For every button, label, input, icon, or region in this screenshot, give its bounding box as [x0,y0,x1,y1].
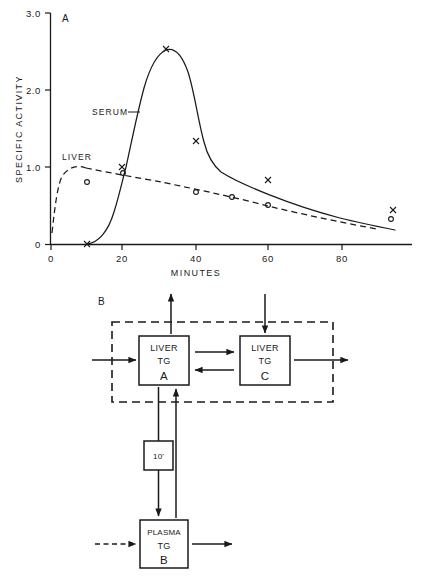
figure-svg: A 3.0 2.0 1.0 0 0 20 40 60 80 MINUTES [0,0,421,583]
serum-series-label: SERUM [92,107,128,117]
serum-curve [87,49,395,244]
panel-b-diagram: B LIVER TG A LIVER TG C 10' PLASMA TG B [92,294,348,568]
liver-tg-c-line3: C [261,370,270,382]
panel-a-letter: A [62,13,69,24]
x-tick-label-4: 80 [336,253,348,264]
x-tick-label-2: 40 [190,253,202,264]
x-tick-label-3: 60 [262,253,274,264]
x-tick-label-1: 20 [116,253,128,264]
serum-marker-60 [265,177,271,183]
liver-curve-rise [52,166,86,233]
y-tick-label-1: 1.0 [26,162,41,173]
plasma-tg-b-line1: PLASMA [147,528,181,537]
liver-data-markers [85,171,394,222]
plasma-tg-b-line2: TG [157,541,170,551]
panel-a-chart: A 3.0 2.0 1.0 0 0 20 40 60 80 MINUTES [14,8,412,278]
y-tick-label-2: 2.0 [26,85,41,96]
figure-container: A 3.0 2.0 1.0 0 0 20 40 60 80 MINUTES [0,0,421,583]
x-axis-title: MINUTES [171,268,221,278]
plasma-tg-b-line3: B [160,554,168,566]
y-tick-label-3: 3.0 [26,8,41,19]
y-axis-title: SPECIFIC ACTIVITY [14,75,24,183]
panel-b-letter: B [98,296,105,307]
serum-marker-20 [119,164,125,170]
serum-marker-90 [390,207,396,213]
x-tick-label-0: 0 [48,253,54,264]
serum-marker-40 [193,138,199,144]
liver-tg-a-line2: TG [157,356,170,366]
y-axis-ticks [45,13,51,245]
x-axis-ticks [51,245,342,251]
liver-tg-c-line1: LIVER [251,343,279,353]
liver-tg-a-line3: A [160,370,168,382]
liver-marker-40 [194,190,199,195]
y-tick-label-0: 0 [35,239,41,250]
liver-curve-decline [86,168,377,229]
liver-series-label: LIVER [62,152,92,162]
liver-tg-a-line1: LIVER [150,343,178,353]
liver-tg-c-line2: TG [258,356,271,366]
liver-marker-10 [85,180,90,185]
liver-marker-90 [389,217,394,222]
delay-box-label: 10' [153,452,164,461]
